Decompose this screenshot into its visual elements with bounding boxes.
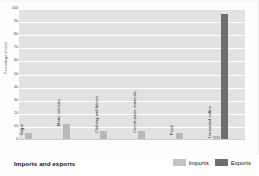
legend-item-exports[interactable]: Exports xyxy=(215,159,251,166)
legend-swatch-exports-icon xyxy=(215,159,228,166)
category-label-clothing-and-fabrics: Clothing and fabrics xyxy=(95,95,99,132)
legend-label: Exports xyxy=(231,160,251,166)
gridline-90 xyxy=(19,22,245,23)
y-tick-40: 40 xyxy=(14,86,18,90)
gridline-40 xyxy=(19,88,245,89)
gridline-70 xyxy=(19,48,245,49)
legend-label: Imports xyxy=(189,160,209,166)
bar-exports-unroasted-coffee xyxy=(221,14,228,140)
chart-footer: Imports and exports ImportsExports xyxy=(0,155,259,176)
chart-title: Imports and exports xyxy=(14,160,75,167)
y-tick-10: 10 xyxy=(14,125,18,129)
category-label-motor-vehicles: Motor vehicles xyxy=(57,99,61,126)
bar-imports-motor-vehicles xyxy=(63,124,70,140)
legend-swatch-imports-icon xyxy=(173,159,186,166)
y-tick-60: 60 xyxy=(14,60,18,64)
chart-legend: ImportsExports xyxy=(173,159,251,166)
gridline-50 xyxy=(19,75,245,76)
bar-chart: Percentage of total 10090807060504030201… xyxy=(0,0,259,155)
gridline-100 xyxy=(19,9,245,10)
legend-item-imports[interactable]: Imports xyxy=(173,159,209,166)
y-axis-tick-labels: 1009080706050403020100 xyxy=(6,9,18,140)
x-axis-baseline xyxy=(19,139,245,140)
y-tick-50: 50 xyxy=(14,73,18,77)
category-label-food: Food xyxy=(170,126,174,136)
gridline-80 xyxy=(19,35,245,36)
category-label-unroasted-coffee: Unroasted coffee xyxy=(208,106,212,138)
y-tick-20: 20 xyxy=(14,112,18,116)
y-tick-100: 100 xyxy=(12,7,18,11)
y-tick-0: 0 xyxy=(16,138,18,142)
y-tick-80: 80 xyxy=(14,33,18,37)
y-tick-90: 90 xyxy=(14,20,18,24)
y-tick-30: 30 xyxy=(14,99,18,103)
category-label-construction-materials: Construction materials xyxy=(133,91,137,133)
category-label-sugar: Sugar xyxy=(20,124,24,135)
chart-page: Percentage of total 10090807060504030201… xyxy=(0,0,259,176)
gridline-60 xyxy=(19,61,245,62)
y-tick-70: 70 xyxy=(14,47,18,51)
